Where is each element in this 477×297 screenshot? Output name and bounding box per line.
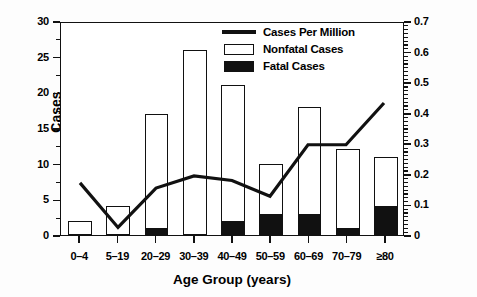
secondary-y-axis-minor-tick <box>404 209 408 210</box>
secondary-y-axis-tick <box>404 52 411 54</box>
secondary-y-axis-minor-tick <box>404 186 408 187</box>
y-axis-tick <box>53 93 60 95</box>
legend-label: Nonfatal Cases <box>263 43 343 55</box>
y-axis-tick-label: 0 <box>23 229 49 241</box>
legend-item-nonfatal-cases: Nonfatal Cases <box>222 41 372 57</box>
secondary-y-axis-tick-label: 0.2 <box>414 168 429 180</box>
filled-square-key-icon <box>222 60 256 73</box>
secondary-y-axis-tick-label: 0.5 <box>414 76 429 88</box>
secondary-y-axis-tick <box>404 113 411 115</box>
secondary-y-axis-minor-tick <box>404 75 408 76</box>
x-axis-tick <box>308 236 310 243</box>
legend-label: Cases Per Million <box>263 26 355 38</box>
secondary-y-axis-minor-tick <box>404 105 408 106</box>
secondary-y-axis-minor-tick <box>404 182 408 183</box>
y-axis-tick-label: 10 <box>23 158 49 170</box>
secondary-y-axis-minor-tick <box>404 86 408 87</box>
secondary-y-axis-minor-tick <box>404 44 408 45</box>
secondary-y-axis-minor-tick <box>404 163 408 164</box>
secondary-y-axis-minor-tick <box>404 25 408 26</box>
y-axis-tick-label: 25 <box>23 51 49 63</box>
secondary-y-axis-minor-tick <box>404 201 408 202</box>
x-axis-tick <box>193 236 195 243</box>
secondary-y-axis-minor-tick <box>404 190 408 191</box>
y-axis-tick <box>53 128 60 130</box>
secondary-y-axis-tick <box>404 235 411 237</box>
x-axis-tick <box>231 236 233 243</box>
x-axis-tick-label: ≥80 <box>355 250 415 262</box>
secondary-y-axis-minor-tick <box>404 132 408 133</box>
secondary-y-axis-tick <box>404 21 411 23</box>
secondary-y-axis-tick-label: 0.1 <box>414 198 429 210</box>
secondary-y-axis-minor-tick <box>404 63 408 64</box>
x-axis-tick <box>269 236 271 243</box>
y-axis-tick-label: 15 <box>23 122 49 134</box>
x-axis-tick <box>78 236 80 243</box>
secondary-y-axis-minor-tick <box>404 60 408 61</box>
secondary-y-axis-tick <box>404 174 411 176</box>
legend-item-fatal-cases: Fatal Cases <box>222 58 372 74</box>
secondary-y-axis-tick <box>404 82 411 84</box>
secondary-y-axis-tick-label: 0.7 <box>414 15 429 27</box>
secondary-y-axis-minor-tick <box>404 193 408 194</box>
secondary-y-axis-minor-tick <box>404 197 408 198</box>
secondary-y-axis-minor-tick <box>404 212 408 213</box>
chart-legend: Cases Per Million Nonfatal Cases Fatal C… <box>222 24 372 75</box>
secondary-y-axis-tick-label: 0.6 <box>414 46 429 58</box>
x-axis-tick <box>384 236 386 243</box>
secondary-y-axis-minor-tick <box>404 216 408 217</box>
x-axis-tick <box>346 236 348 243</box>
secondary-y-axis-minor-tick <box>404 121 408 122</box>
secondary-y-axis-minor-tick <box>404 224 408 225</box>
secondary-y-axis-minor-tick <box>404 71 408 72</box>
secondary-y-axis-minor-tick <box>404 128 408 129</box>
secondary-y-axis-minor-tick <box>404 136 408 137</box>
secondary-y-axis-minor-tick <box>404 56 408 57</box>
secondary-y-axis-tick-label: 0 <box>414 229 420 241</box>
line-series-cases-per-million <box>80 103 384 227</box>
y-axis-tick-label: 20 <box>23 86 49 98</box>
line-key-icon <box>222 26 256 39</box>
open-square-key-icon <box>222 43 256 56</box>
secondary-y-axis-minor-tick <box>404 232 408 233</box>
legend-label: Fatal Cases <box>263 60 325 72</box>
x-axis-tick <box>155 236 157 243</box>
secondary-y-axis-minor-tick <box>404 98 408 99</box>
legend-item-cases-per-million: Cases Per Million <box>222 24 372 40</box>
y-axis-tick <box>53 21 60 23</box>
secondary-y-axis-minor-tick <box>404 67 408 68</box>
secondary-y-axis-minor-tick <box>404 178 408 179</box>
chart-figure: Cases Cases per million population Age G… <box>0 0 477 297</box>
secondary-y-axis-minor-tick <box>404 90 408 91</box>
secondary-y-axis-minor-tick <box>404 140 408 141</box>
secondary-y-axis-tick-label: 0.3 <box>414 137 429 149</box>
secondary-y-axis-tick <box>404 143 411 145</box>
secondary-y-axis-minor-tick <box>404 228 408 229</box>
secondary-y-axis-minor-tick <box>404 170 408 171</box>
y-axis-tick <box>53 57 60 59</box>
secondary-y-axis-minor-tick <box>404 37 408 38</box>
secondary-y-axis-minor-tick <box>404 159 408 160</box>
y-axis-tick-label: 30 <box>23 15 49 27</box>
x-axis-tick <box>117 236 119 243</box>
secondary-y-axis-minor-tick <box>404 155 408 156</box>
secondary-y-axis-minor-tick <box>404 102 408 103</box>
secondary-y-axis-minor-tick <box>404 33 408 34</box>
secondary-y-axis-minor-tick <box>404 148 408 149</box>
secondary-y-axis-minor-tick <box>404 94 408 95</box>
secondary-y-axis-minor-tick <box>404 151 408 152</box>
y-axis-tick <box>53 235 60 237</box>
secondary-y-axis-minor-tick <box>404 48 408 49</box>
secondary-y-axis-minor-tick <box>404 79 408 80</box>
y-axis-tick-label: 5 <box>23 193 49 205</box>
y-axis-tick <box>53 200 60 202</box>
secondary-y-axis-minor-tick <box>404 117 408 118</box>
secondary-y-axis-minor-tick <box>404 220 408 221</box>
secondary-y-axis-minor-tick <box>404 109 408 110</box>
secondary-y-axis-minor-tick <box>404 29 408 30</box>
secondary-y-axis-minor-tick <box>404 41 408 42</box>
y-axis-tick <box>53 164 60 166</box>
secondary-y-axis-tick <box>404 205 411 207</box>
secondary-y-axis-minor-tick <box>404 167 408 168</box>
secondary-y-axis-minor-tick <box>404 125 408 126</box>
